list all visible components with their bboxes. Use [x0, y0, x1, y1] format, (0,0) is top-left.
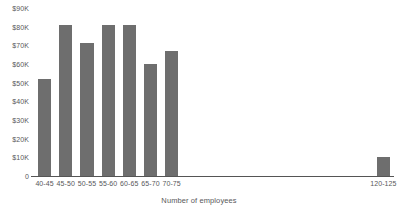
bar: [144, 64, 157, 176]
x-axis: 40-4545-5050-5555-6060-6565-7070-75120-1…: [34, 178, 394, 196]
y-tick-label: $60K: [12, 61, 29, 68]
bar-series: [34, 8, 394, 176]
x-tick-label: 45-50: [57, 180, 75, 187]
y-tick-label: $80K: [12, 23, 29, 30]
x-tick-label: 65-70: [141, 180, 159, 187]
x-axis-line: [34, 176, 394, 177]
y-tick-label: $10K: [12, 154, 29, 161]
y-tick-label: $70K: [12, 42, 29, 49]
x-axis-title: Number of employees: [0, 196, 398, 205]
bar: [38, 79, 51, 176]
plot-area: [34, 8, 394, 176]
y-tick-label: $90K: [12, 5, 29, 12]
y-tick-label: 0: [25, 173, 29, 180]
x-tick-label: 60-65: [120, 180, 138, 187]
y-tick-label: $30K: [12, 117, 29, 124]
y-tick-label: $20K: [12, 135, 29, 142]
x-tick-label: 120-125: [370, 180, 396, 187]
bar: [377, 157, 390, 176]
bar: [123, 25, 136, 176]
x-tick-label: 50-55: [78, 180, 96, 187]
x-tick-label: 55-60: [99, 180, 117, 187]
y-axis: 0$10K$20K$30K$40K$50K$60K$70K$80K$90K: [0, 0, 34, 217]
bar: [59, 25, 72, 176]
bar: [102, 25, 115, 176]
bar: [165, 51, 178, 176]
x-tick-label: 40-45: [35, 180, 53, 187]
y-tick-label: $40K: [12, 98, 29, 105]
bar-chart: 0$10K$20K$30K$40K$50K$60K$70K$80K$90K 40…: [0, 0, 398, 217]
bar: [80, 43, 93, 176]
y-tick-label: $50K: [12, 79, 29, 86]
x-tick-label: 70-75: [162, 180, 180, 187]
